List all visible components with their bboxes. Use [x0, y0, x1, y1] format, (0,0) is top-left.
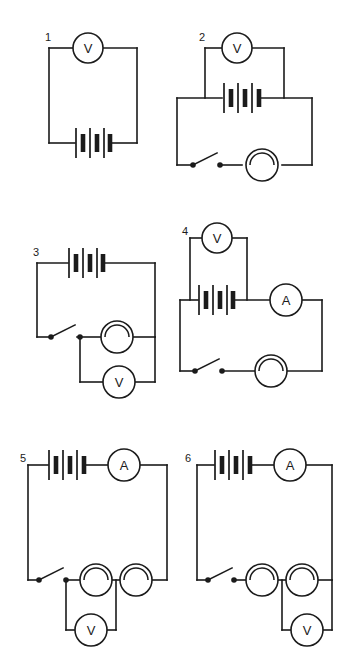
- lamp-symbol: [246, 149, 278, 181]
- switch-symbol: [48, 325, 83, 340]
- switch-node-right: [219, 368, 225, 374]
- circuit-number-4: 4: [182, 225, 188, 237]
- circuit-worksheet: V 1 V: [0, 0, 344, 654]
- voltmeter-label: V: [303, 623, 312, 638]
- voltmeter: V: [73, 33, 103, 63]
- voltmeter-label: V: [213, 231, 222, 246]
- lamp-symbol: [255, 355, 287, 387]
- circuit-number-6: 6: [185, 452, 191, 464]
- lamp-symbol: [80, 564, 112, 596]
- voltmeter: V: [75, 614, 107, 646]
- ammeter-label: A: [120, 458, 129, 473]
- circuit-diagram-6: A V 6: [172, 430, 344, 654]
- switch-node-right: [63, 577, 69, 583]
- voltmeter-label: V: [84, 41, 93, 56]
- ammeter: A: [274, 449, 306, 481]
- battery-symbol: [69, 248, 103, 278]
- battery-symbol: [199, 285, 233, 315]
- circuit-number-2: 2: [199, 31, 205, 43]
- voltmeter: V: [103, 366, 135, 398]
- circuit-diagram-2: V 2: [172, 0, 344, 200]
- ammeter-label: A: [286, 458, 295, 473]
- ammeter: A: [270, 284, 302, 316]
- circuit-diagram-4: V A 4: [172, 210, 344, 420]
- battery-symbol: [215, 450, 250, 480]
- switch-symbol: [190, 153, 223, 168]
- voltmeter: V: [291, 614, 323, 646]
- circuit-number-3: 3: [33, 246, 39, 258]
- voltmeter: V: [202, 223, 232, 253]
- battery-symbol: [224, 83, 259, 113]
- switch-node-right: [231, 577, 237, 583]
- circuit-diagram-1: V 1: [0, 0, 172, 200]
- switch-lever: [51, 325, 75, 337]
- battery-symbol: [49, 450, 84, 480]
- lamp-symbol: [246, 564, 278, 596]
- switch-symbol: [192, 359, 225, 374]
- lamp-symbol: [120, 564, 152, 596]
- circuit-diagram-5: A V 5: [0, 430, 176, 654]
- switch-lever: [195, 359, 219, 371]
- voltmeter-label: V: [233, 41, 242, 56]
- circuit-number-1: 1: [45, 31, 51, 43]
- circuit-number-5: 5: [20, 452, 26, 464]
- switch-lever: [39, 568, 63, 580]
- switch-lever: [208, 568, 232, 580]
- ammeter: A: [108, 449, 140, 481]
- switch-lever: [193, 153, 217, 165]
- ammeter-label: A: [282, 293, 291, 308]
- lamp-symbol: [101, 321, 133, 353]
- switch-symbol: [36, 568, 69, 583]
- lamp-symbol: [286, 564, 318, 596]
- switch-node-right: [217, 162, 223, 168]
- voltmeter: V: [222, 33, 252, 63]
- switch-symbol: [205, 568, 237, 583]
- voltmeter-label: V: [115, 375, 124, 390]
- switch-node-right: [77, 334, 83, 340]
- voltmeter-label: V: [87, 623, 96, 638]
- battery-symbol: [76, 128, 110, 158]
- circuit-diagram-3: V 3: [0, 210, 180, 420]
